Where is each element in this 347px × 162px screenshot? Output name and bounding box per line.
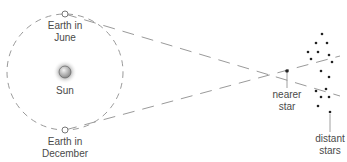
sun-label: Sun	[45, 85, 85, 97]
distant-star-icon	[326, 42, 329, 45]
distant-star-icon	[307, 51, 310, 54]
distant-star-icon	[331, 61, 334, 64]
earth-december-line1: Earth in	[35, 136, 95, 148]
distant-star-icon	[328, 76, 331, 79]
earth-june-line2: June	[40, 32, 90, 44]
nearer-star-line1: nearer	[267, 89, 307, 101]
distant-stars-line1: distant	[308, 133, 347, 145]
distant-stars	[307, 33, 334, 114]
sightline-june	[65, 14, 340, 96]
nearer-star-line2: star	[267, 101, 307, 113]
distant-star-icon	[317, 51, 320, 54]
earth-june-label: Earth in June	[40, 20, 90, 44]
distant-star-icon	[310, 58, 313, 61]
distant-star-icon	[329, 111, 332, 114]
distant-star-icon	[325, 88, 328, 91]
earth-june-icon	[62, 11, 68, 17]
distant-star-icon	[328, 96, 331, 99]
earth-december-line2: December	[35, 148, 95, 160]
distant-stars-line2: stars	[308, 145, 347, 157]
distant-star-icon	[321, 33, 324, 36]
earth-december-label: Earth in December	[35, 136, 95, 160]
distant-star-icon	[317, 105, 320, 108]
distant-stars-label: distant stars	[308, 133, 347, 157]
nearer-star-label: nearer star	[267, 89, 307, 113]
distant-star-icon	[320, 70, 323, 73]
distant-star-icon	[315, 42, 318, 45]
sun-icon	[59, 66, 71, 78]
nearer-star-icon	[285, 69, 289, 73]
distant-star-icon	[320, 96, 323, 99]
earth-december-icon	[62, 127, 68, 133]
earth-june-line1: Earth in	[40, 20, 90, 32]
distant-star-icon	[328, 54, 331, 57]
distant-star-icon	[315, 90, 318, 93]
